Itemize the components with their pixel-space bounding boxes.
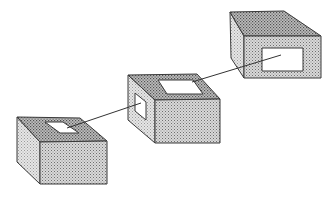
box-opening-front: [262, 48, 303, 71]
diagram-canvas: [0, 0, 328, 197]
boxes-layer: [17, 11, 321, 184]
boxes-diagram: [0, 0, 328, 197]
box-middle: [128, 74, 220, 143]
box-top-face: [230, 11, 321, 36]
box-front-face: [40, 141, 107, 184]
box-right: [230, 11, 321, 78]
box-front-face: [155, 99, 220, 143]
box-left: [17, 117, 107, 184]
